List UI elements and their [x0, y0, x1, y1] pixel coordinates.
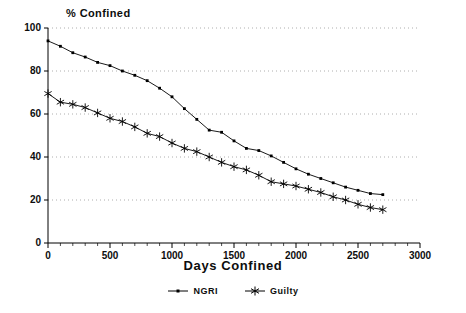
y-tick-label: 20: [30, 194, 41, 205]
legend-label-guilty: Guilty: [270, 286, 299, 296]
x-tick-label: 2000: [271, 250, 321, 261]
x-tick-label: 1000: [147, 250, 197, 261]
x-tick-label: 2500: [333, 250, 383, 261]
y-tick-label: 100: [24, 22, 41, 33]
series-ngri: [47, 40, 385, 197]
gridlines: [48, 28, 420, 200]
axis-ticks: [44, 28, 420, 248]
x-tick-label: 1500: [209, 250, 259, 261]
legend-marker-ngri-icon: [167, 286, 189, 296]
x-tick-label: 0: [23, 250, 73, 261]
y-tick-label: 40: [30, 151, 41, 162]
legend-item-ngri[interactable]: NGRI: [167, 286, 218, 296]
chart-legend: NGRI Guilty: [0, 285, 466, 297]
data-series-layer: [44, 40, 386, 214]
y-axis-title: % Confined: [66, 7, 131, 19]
legend-label-ngri: NGRI: [193, 286, 218, 296]
series-guilty: [44, 89, 386, 214]
y-tick-label: 0: [35, 237, 41, 248]
x-tick-label: 500: [85, 250, 135, 261]
chart-figure: % Confined Days Confined 020406080100050…: [0, 0, 466, 313]
axis-lines: [48, 28, 420, 243]
legend-marker-guilty-icon: [244, 285, 266, 297]
y-tick-label: 60: [30, 108, 41, 119]
x-tick-label: 3000: [395, 250, 445, 261]
y-tick-label: 80: [30, 65, 41, 76]
legend-item-guilty[interactable]: Guilty: [244, 285, 299, 297]
